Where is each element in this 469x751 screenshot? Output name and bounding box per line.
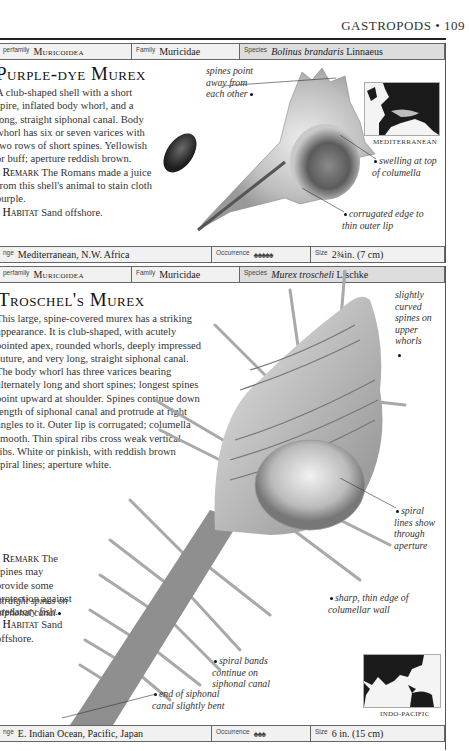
annotation-corrugated-edge: corrugated edge to thin outer lip — [342, 208, 434, 231]
header-rule — [0, 38, 446, 40]
annotation-spiral-bands: spiral bands continue on siphonal canal — [212, 655, 292, 690]
species-cell: Species Bolinus brandaris Linnaeus — [240, 44, 444, 59]
pointer-dot-icon — [58, 612, 61, 615]
map-label: MEDITERRANEAN — [373, 138, 437, 146]
map-image — [365, 83, 439, 135]
pointer-dot-icon — [396, 345, 403, 363]
annotation-swelling-columella: swelling at top of columella — [372, 155, 446, 178]
leader-line — [60, 690, 160, 720]
occurrence-cell: Occurrence ♠♠♠ — [212, 726, 311, 741]
occurrence-cell: Occurrence ♠♠♠♠♠ — [212, 247, 311, 262]
leader-line — [302, 188, 346, 214]
annotation-curved-spines: slightly curved spines on upper whorls — [395, 289, 443, 347]
range-map-indo-pacific — [363, 654, 441, 708]
family-cell: Family Muricidae — [132, 44, 240, 59]
pointer-dot-icon — [214, 660, 217, 663]
map-image — [364, 655, 440, 707]
entry-description: A club-shaped shell with a short spire, … — [0, 86, 154, 219]
page-number: 109 — [444, 18, 465, 33]
pointer-dot-icon — [250, 93, 253, 96]
running-head: GASTROPODS • 109 — [341, 18, 465, 34]
annotation-spines-point: spines point away from each other — [206, 65, 266, 100]
annotation-spiral-lines: spiral lines show through aperture — [394, 505, 442, 551]
size-cell: Size 2¾in. (7 cm) — [311, 247, 444, 262]
leader-line — [340, 478, 400, 510]
range-cell: nge Mediterranean, N.W. Africa — [0, 247, 212, 262]
entry-title: Purple-dye Murex — [0, 63, 146, 85]
annotation-straight-spines: straight spines on siphonal canal — [0, 595, 78, 618]
occurrence-shell-icons: ♠♠♠ — [254, 729, 265, 739]
distribution-table-1: nge Mediterranean, N.W. Africa Occurrenc… — [0, 246, 445, 263]
bullet-separator: • — [435, 18, 444, 33]
section-title: GASTROPODS — [341, 18, 431, 33]
occurrence-shell-icons: ♠♠♠♠♠ — [254, 250, 273, 260]
pointer-dot-icon — [330, 597, 333, 600]
distribution-table-2: nge E. Indian Ocean, Pacific, Japan Occu… — [0, 725, 445, 742]
map-label: INDO-PACIFIC — [380, 710, 430, 718]
pointer-dot-icon — [396, 510, 399, 513]
range-map-mediterranean — [364, 82, 440, 136]
superfamily-cell: perfamily Muricoidea — [0, 44, 132, 59]
size-cell: Size 6 in. (15 cm) — [311, 726, 444, 741]
annotation-sharp-edge: sharp, thin edge of columellar wall — [328, 592, 438, 615]
range-cell: nge E. Indian Ocean, Pacific, Japan — [0, 726, 212, 741]
classification-table-1: perfamily Muricoidea Family Muricidae Sp… — [0, 43, 445, 60]
annotation-canal-end: end of siphonal canal slightly bent — [152, 688, 242, 711]
